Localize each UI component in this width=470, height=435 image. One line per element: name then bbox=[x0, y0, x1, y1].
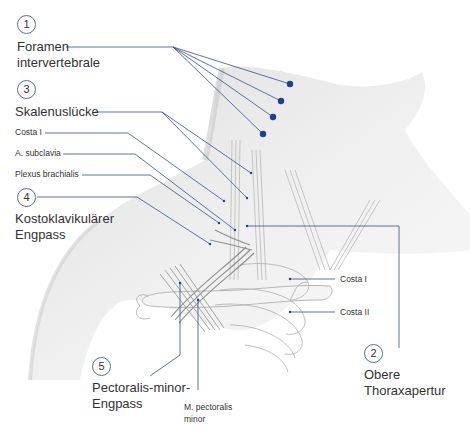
label-kostoklavikulaerer-line2: Engpass bbox=[15, 227, 66, 243]
label-foramen-intervertebrale-line2: intervertebrale bbox=[17, 55, 100, 71]
label-m-pectoralis-minor-line2: minor bbox=[184, 414, 205, 424]
label-costa-1-left: Costa I bbox=[15, 127, 42, 137]
number-badge-4: 4 bbox=[17, 188, 36, 207]
label-pectoralis-minor-engpass-line2: Engpass bbox=[92, 396, 143, 412]
number-badge-3: 3 bbox=[17, 80, 36, 99]
number-badge-2: 2 bbox=[364, 344, 383, 363]
label-a-subclavia: A. subclavia bbox=[15, 148, 61, 158]
label-obere-thoraxapertur-line1: Obere bbox=[364, 367, 400, 383]
number-badge-5: 5 bbox=[92, 357, 111, 376]
number-badge-1: 1 bbox=[17, 15, 36, 34]
label-costa-2-right: Costa II bbox=[340, 307, 369, 317]
label-costa-1-right: Costa I bbox=[340, 274, 367, 284]
label-obere-thoraxapertur-line2: Thoraxapertur bbox=[364, 383, 446, 399]
label-plexus-brachialis: Plexus brachialis bbox=[15, 169, 79, 179]
label-skalenusluecke: Skalenuslücke bbox=[15, 104, 99, 120]
label-foramen-intervertebrale-line1: Foramen bbox=[17, 39, 69, 55]
label-kostoklavikulaerer-line1: Kostoklavikulärer bbox=[15, 211, 114, 227]
label-m-pectoralis-minor-line1: M. pectoralis bbox=[184, 402, 232, 412]
label-pectoralis-minor-engpass-line1: Pectoralis-minor- bbox=[92, 380, 190, 396]
